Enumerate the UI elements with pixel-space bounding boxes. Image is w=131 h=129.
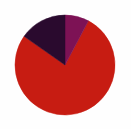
pie-slices bbox=[15, 15, 115, 115]
pie-chart-svg bbox=[0, 0, 131, 129]
pie-chart-container bbox=[0, 0, 131, 129]
